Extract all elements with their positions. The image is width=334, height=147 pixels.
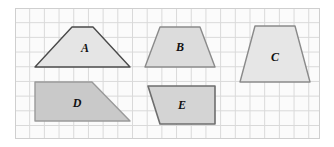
shape-d-polygon[interactable] bbox=[35, 82, 130, 121]
shape-group-b[interactable]: B bbox=[145, 27, 215, 67]
shape-group-d[interactable]: D bbox=[35, 82, 130, 121]
shape-c-label: C bbox=[271, 50, 280, 64]
shape-layer: A B C D E bbox=[0, 0, 334, 147]
figure-canvas: A B C D E bbox=[0, 0, 334, 147]
shape-group-c[interactable]: C bbox=[240, 26, 310, 82]
shape-group-e[interactable]: E bbox=[148, 86, 215, 124]
shape-e-label: E bbox=[177, 98, 186, 112]
shape-b-label: B bbox=[175, 40, 184, 54]
shape-a-label: A bbox=[80, 41, 89, 55]
shape-group-a[interactable]: A bbox=[35, 27, 130, 67]
shape-d-label: D bbox=[72, 96, 82, 110]
